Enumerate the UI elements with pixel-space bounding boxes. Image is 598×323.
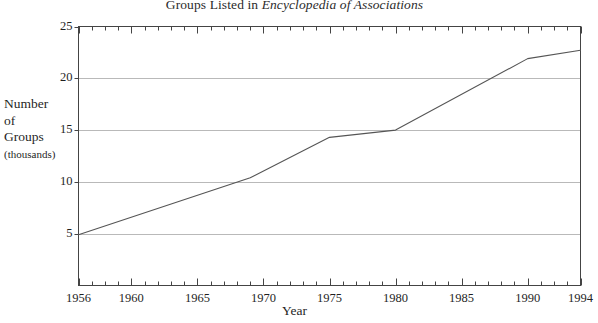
gridlines (79, 79, 581, 235)
y-axis-title-line-4: (thousands) (4, 146, 76, 163)
y-axis-tick-label: 20 (39, 70, 73, 85)
x-axis-ticks (80, 27, 582, 286)
y-axis-tick-label: 25 (39, 19, 73, 34)
y-axis-tick-label: 5 (39, 226, 73, 241)
y-axis-title-line-2: of (4, 113, 76, 130)
x-axis-title: Year (0, 303, 589, 319)
y-axis-title-line-3: Groups (4, 129, 76, 146)
y-axis-title-line-1: Number (4, 96, 76, 113)
plot-frame (79, 27, 581, 286)
data-line-groups-listed (79, 50, 581, 234)
y-axis-title: Number of Groups (thousands) (4, 96, 76, 162)
y-axis-tick-label: 10 (39, 174, 73, 189)
